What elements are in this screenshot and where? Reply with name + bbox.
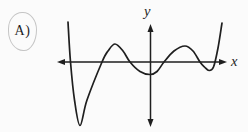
x-axis-left-arrowhead: [57, 59, 65, 65]
y-axis-bottom-arrowhead: [148, 119, 154, 127]
y-axis-top-arrowhead: [148, 24, 154, 32]
function-graph: [0, 0, 248, 132]
x-axis-right-arrowhead: [219, 59, 227, 65]
axes: [57, 24, 227, 127]
y-axis-label: y: [144, 4, 150, 19]
polynomial-curve: [68, 22, 222, 126]
polynomial-graph-figure: A) y x: [0, 0, 248, 132]
x-axis-label: x: [231, 54, 237, 69]
